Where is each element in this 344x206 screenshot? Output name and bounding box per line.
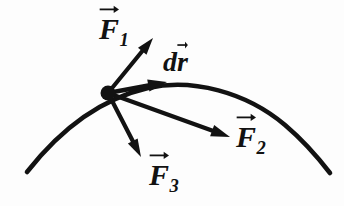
label-F3-stack: F [149, 160, 169, 190]
label-F3-subscript: 3 [169, 175, 178, 196]
label-F1-subscript: 1 [119, 29, 128, 50]
label-dr-d: d [163, 48, 177, 76]
label-F3-base: F [149, 160, 169, 190]
label-F2-subscript: 2 [256, 137, 265, 158]
label-F1: F 1 [99, 14, 128, 44]
label-dr: d r [163, 48, 188, 76]
label-dr-r: r [177, 48, 188, 76]
vector-diagram: F 1 d r F 2 [0, 0, 344, 206]
label-F3: F 3 [149, 160, 178, 190]
label-F2-base: F [236, 122, 256, 152]
label-F1-base: F [99, 14, 119, 44]
vector-F3-arrowhead [128, 138, 141, 157]
particle-dot [101, 86, 116, 101]
trajectory-curve [27, 85, 330, 173]
label-F2: F 2 [236, 122, 265, 152]
label-F2-stack: F [236, 122, 256, 152]
label-F1-stack: F [99, 14, 119, 44]
vector-F2-arrowhead [210, 125, 230, 137]
label-dr-stack: r [177, 48, 188, 76]
